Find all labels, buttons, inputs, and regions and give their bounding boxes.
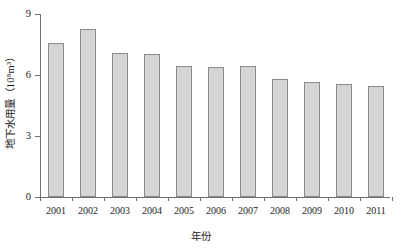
x-axis-tick-label: 2011 <box>356 204 396 217</box>
y-axis-tick: 3 <box>35 136 40 137</box>
y-axis-tick-label: 3 <box>26 129 31 142</box>
plot-area: 0369 20012002200320042005200620072008200… <box>40 14 390 197</box>
y-axis-tick: 6 <box>35 75 40 76</box>
bar-chart-figure: 地下水用量（10⁸m³） 0369 2001200220032004200520… <box>0 0 401 251</box>
x-axis-line <box>40 197 390 198</box>
bar <box>304 82 320 197</box>
x-axis-tick <box>296 197 297 201</box>
x-axis-title-text: 年份 <box>191 231 211 242</box>
x-axis-tick <box>392 197 393 201</box>
x-axis-tick <box>200 197 201 201</box>
bar <box>112 53 128 197</box>
x-axis-tick <box>328 197 329 201</box>
x-axis-title: 年份 <box>0 228 401 243</box>
x-axis-tick <box>104 197 105 201</box>
y-axis-tick-label: 0 <box>26 190 31 203</box>
x-axis-tick <box>168 197 169 201</box>
bar <box>368 86 384 197</box>
bar <box>48 43 64 197</box>
bar <box>240 66 256 197</box>
y-axis-title-text: 地下水用量（10⁸m³） <box>3 51 18 149</box>
y-axis-tick-label: 9 <box>26 7 31 20</box>
y-axis-title: 地下水用量（10⁸m³） <box>0 0 20 200</box>
bar <box>336 84 352 197</box>
x-axis-tick <box>232 197 233 201</box>
bar <box>144 54 160 197</box>
x-axis-tick <box>136 197 137 201</box>
x-axis-tick <box>360 197 361 201</box>
x-axis-tick <box>72 197 73 201</box>
bar <box>176 66 192 197</box>
bar <box>208 67 224 197</box>
y-axis-line <box>40 14 41 197</box>
y-axis-tick-label: 6 <box>26 68 31 81</box>
x-axis-tick <box>264 197 265 201</box>
bar <box>272 79 288 197</box>
bar <box>80 29 96 197</box>
x-axis-tick <box>40 197 41 201</box>
y-axis-tick: 9 <box>35 14 40 15</box>
